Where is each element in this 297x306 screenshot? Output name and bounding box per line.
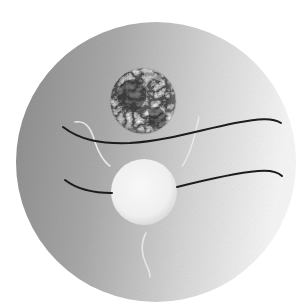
white-sphere [111, 159, 177, 225]
earth-and-sphere-diagram [0, 0, 297, 306]
